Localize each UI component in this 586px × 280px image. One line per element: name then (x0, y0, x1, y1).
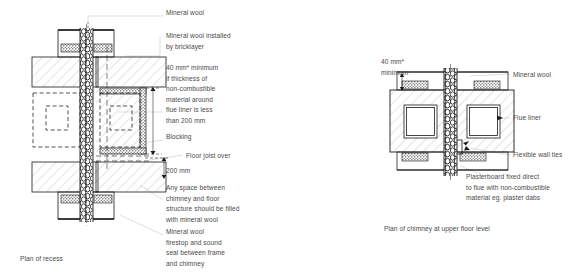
label-flue-liner: Flue liner (513, 113, 585, 124)
left-upper-right-wall (96, 57, 166, 87)
diagram-canvas: Mineral wool Mineral wool installed by b… (0, 0, 586, 280)
label-floor-joist-over: Floor joist over (186, 151, 296, 162)
left-dim-40mm (146, 87, 162, 155)
right-flue-liner-right (467, 105, 500, 138)
right-drawing-plan-upper-floor (390, 64, 514, 180)
label-any-space-between: Any space between chimney and floor stru… (166, 183, 286, 225)
label-flexible-wall-ties: Flexible wall ties (513, 150, 586, 161)
label-40mm-minimum-left: 40 mm* minimum if thickness of non-combu… (166, 63, 284, 127)
label-mineral-wool-left: Mineral wool (166, 8, 284, 19)
label-200mm: 200 mm (166, 166, 276, 177)
left-drawing-plan-of-recess (32, 16, 183, 235)
label-blocking: Blocking (166, 132, 284, 143)
caption-plan-of-chimney-upper-floor: Plan of chimney at upper floor level (384, 224, 490, 234)
right-flue-liner-left (404, 105, 437, 138)
label-mineral-wool-firestop: Mineral wool firestop and sound seal bet… (166, 227, 284, 269)
label-mineral-wool-bricklayer: Mineral wool installed by bricklayer (166, 31, 284, 52)
label-mineral-wool-right: Mineral wool (513, 70, 585, 81)
technical-drawings-svg (0, 0, 586, 280)
label-plasterboard-fixed-direct: Plasterboard fixed direct to flue with n… (466, 172, 586, 204)
left-lower-right-wall (96, 162, 166, 192)
caption-plan-of-recess: Plan of recess (20, 254, 63, 264)
label-40mm-minimum-right: 40 mm* minimum (381, 57, 441, 78)
